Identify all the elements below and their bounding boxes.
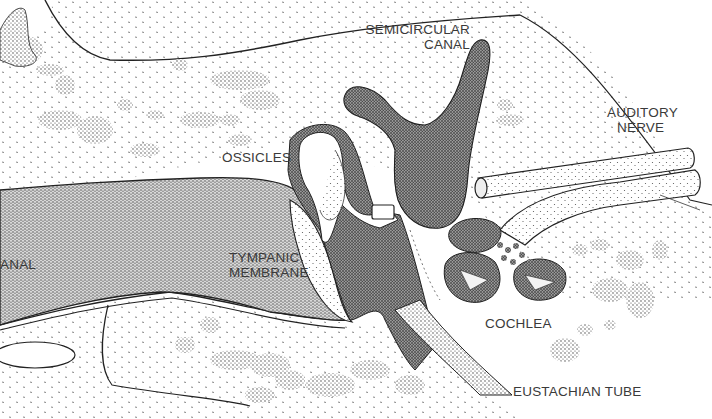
ear-anatomy-diagram: SEMICIRCULAR CANAL AUDITORY NERVE OSSICL… xyxy=(0,0,712,419)
label-line: CANAL xyxy=(358,37,470,52)
label-eustachian-tube: EUSTACHIAN TUBE xyxy=(513,384,642,399)
label-ear-canal: ANAL xyxy=(0,257,36,272)
label-line: TYMPANIC xyxy=(229,250,309,265)
label-line: COCHLEA xyxy=(485,316,552,331)
label-line: NERVE xyxy=(607,120,678,135)
label-semicircular-canal: SEMICIRCULAR CANAL xyxy=(358,22,470,52)
label-line: SEMICIRCULAR xyxy=(358,22,470,37)
label-line: MEMBRANE xyxy=(229,265,309,280)
label-tympanic-membrane: TYMPANIC MEMBRANE xyxy=(229,250,309,280)
label-line: OSSICLES xyxy=(222,150,291,165)
label-line: EUSTACHIAN TUBE xyxy=(513,384,642,399)
label-ossicles: OSSICLES xyxy=(222,150,291,165)
label-line: AUDITORY xyxy=(607,105,678,120)
stapes-footplate xyxy=(372,205,394,219)
label-auditory-nerve: AUDITORY NERVE xyxy=(607,105,678,135)
label-cochlea: COCHLEA xyxy=(485,316,552,331)
label-line: ANAL xyxy=(0,257,36,272)
ear-illustration xyxy=(0,0,712,419)
